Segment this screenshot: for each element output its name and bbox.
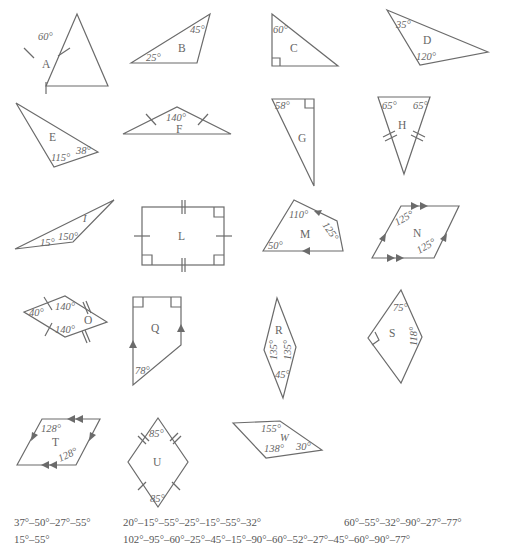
- angle-label: 78°: [135, 365, 151, 376]
- angle-label: 125°: [393, 208, 416, 228]
- shape-label: E: [49, 131, 56, 143]
- shape-label: W: [280, 432, 290, 443]
- angle-label: 140°: [55, 324, 76, 335]
- angle-label: 58°: [275, 100, 291, 111]
- shape-a: 60° A: [24, 14, 108, 94]
- shape-label: G: [298, 132, 306, 144]
- shape-label: F: [176, 123, 182, 135]
- angle-label: 60°: [273, 24, 289, 35]
- shape-label: O: [84, 314, 92, 326]
- angle-label: 140°: [55, 301, 76, 312]
- angle-label: 40°: [29, 307, 45, 318]
- shape-g: 58° G: [272, 99, 314, 186]
- shape-label: B: [178, 42, 186, 54]
- shape-label: U: [153, 456, 162, 468]
- angle-label: 118°: [408, 326, 419, 346]
- angle-label: 135°: [268, 339, 279, 360]
- angle-label: 30°: [295, 441, 312, 452]
- angle-label: 85°: [150, 493, 166, 504]
- angle-label: 45°: [275, 369, 291, 380]
- shape-label: R: [275, 324, 283, 336]
- shape-i: 15° 150° I: [15, 200, 114, 249]
- shape-label: H: [398, 119, 406, 131]
- shape-label: A: [42, 58, 51, 70]
- shape-label: T: [52, 436, 59, 448]
- shape-label: L: [178, 230, 185, 242]
- angle-label: 45°: [190, 24, 206, 35]
- angle-label: 135°: [282, 339, 293, 360]
- answer-sequence: 15°–55°: [14, 533, 50, 545]
- angle-label: 138°: [264, 443, 285, 454]
- angle-label: 128°: [41, 423, 62, 434]
- angle-label: 128°: [56, 445, 79, 464]
- angle-label: 140°: [166, 112, 187, 123]
- angle-label: 110°: [289, 209, 309, 220]
- shape-f: 140° F: [123, 107, 231, 135]
- shape-label: M: [300, 228, 310, 240]
- angle-label: 120°: [416, 51, 437, 62]
- shape-u: 85° 85° U: [128, 418, 188, 507]
- angle-label: 75°: [393, 302, 409, 313]
- shape-h: 65° 65° H: [378, 97, 430, 174]
- shape-label: S: [389, 327, 395, 339]
- shape-r: R 135° 135° 45°: [264, 298, 296, 398]
- angle-label: 60°: [38, 31, 54, 42]
- angle-label: 65°: [382, 100, 398, 111]
- shape-d: 35° 120° D: [387, 10, 488, 65]
- shape-e: 115° 38° E: [16, 103, 98, 167]
- shape-s: 75° 118° S: [368, 290, 422, 383]
- shape-o: 40° 140° 140° O: [24, 296, 107, 343]
- angle-label: 50°: [268, 240, 284, 251]
- angle-label: 85°: [149, 428, 165, 439]
- shape-t: 128° 128° T: [17, 415, 100, 469]
- shape-w: 155° 138° 30° W: [233, 421, 322, 458]
- angle-label: 38°: [75, 145, 92, 156]
- answer-sequence: 102°–95°–60°–25°–45°–15°–90°–60°–52°–27°…: [123, 533, 410, 545]
- angle-label: 150°: [58, 231, 79, 242]
- shape-c: 60° C: [272, 14, 338, 66]
- shape-q: 78° Q: [129, 297, 185, 385]
- shape-label: I: [82, 213, 87, 224]
- geometry-figure: 60° A 45° 25° B 60° C 35° 120° D 115° 38…: [0, 0, 514, 510]
- shape-l: L: [134, 200, 232, 272]
- shape-label: N: [413, 227, 422, 239]
- shape-m: 110° 125° 50° M: [263, 200, 343, 255]
- shape-label: Q: [151, 322, 160, 334]
- angle-label: 35°: [395, 19, 412, 30]
- shape-n: 125° 125° N: [372, 202, 459, 262]
- angle-label: 125°: [320, 220, 341, 243]
- answer-sequence: 60°–55°–32°–90°–27°–77°: [344, 516, 462, 528]
- angle-label: 25°: [146, 52, 162, 63]
- angle-label: 155°: [261, 423, 282, 434]
- angle-label: 115°: [51, 152, 71, 163]
- angle-label: 65°: [413, 100, 429, 111]
- shape-label: C: [290, 42, 298, 54]
- shape-b: 45° 25° B: [131, 14, 210, 63]
- answer-sequence: 20°–15°–55°–25°–15°–55°–32°: [123, 516, 261, 528]
- shape-label: D: [423, 34, 431, 46]
- answer-sequence: 37°–50°–27°–55°: [14, 516, 91, 528]
- angle-label: 15°: [40, 237, 56, 248]
